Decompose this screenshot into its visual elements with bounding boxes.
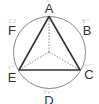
triangle-ace [19, 17, 80, 71]
label-e: E [8, 71, 17, 84]
label-a: A [45, 1, 54, 14]
diagram-canvas [0, 0, 99, 104]
center-dashed-lines [19, 17, 80, 70]
label-c: C [84, 67, 93, 80]
label-b: B [83, 24, 92, 37]
label-f: F [8, 24, 16, 37]
label-d: D [44, 93, 53, 104]
